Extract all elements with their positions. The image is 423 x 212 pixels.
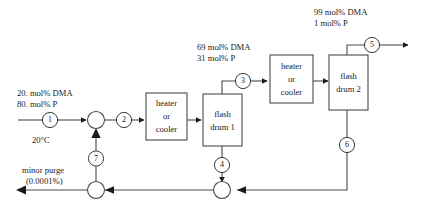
heater2-label-line2: or xyxy=(288,74,295,84)
feed-temperature: 20°C xyxy=(32,135,50,145)
pipe-stream6-to-mixer xyxy=(237,152,347,190)
stream-label-7: 7 xyxy=(94,154,98,163)
stream-label-6: 6 xyxy=(345,140,349,149)
purge-label-line1: minor purge xyxy=(22,165,64,175)
stream-label-2: 2 xyxy=(122,115,126,124)
junction-mixer-feed-recycle[interactable] xyxy=(88,112,105,129)
junction-splitter-purge[interactable] xyxy=(88,182,105,199)
stream-label-4: 4 xyxy=(220,160,224,169)
flash2-label-line2: drum 2 xyxy=(336,84,361,94)
stream5-composition-line1: 99 mol% DMA xyxy=(314,7,368,17)
unit-flash-drum-1[interactable] xyxy=(203,94,242,146)
pipe-flash1-vapor-riser xyxy=(222,81,236,94)
heater1-label-line1: heater xyxy=(156,98,177,108)
process-flow-diagram: heater or cooler flash drum 1 heater or … xyxy=(0,0,423,212)
junction-mixer-bottoms[interactable] xyxy=(214,182,231,199)
arrowhead-recycle-into-mixer xyxy=(91,128,100,138)
flash1-label-line2: drum 1 xyxy=(210,122,235,132)
arrowhead-purge-outlet xyxy=(16,186,26,195)
feed-composition-line2: 80. mol% P xyxy=(17,99,58,109)
stream-label-3: 3 xyxy=(241,76,245,85)
heater2-label-line1: heater xyxy=(281,61,302,71)
heater1-label-line2: or xyxy=(163,111,170,121)
stream-label-1: 1 xyxy=(48,115,52,124)
pipe-flash2-vapor-riser xyxy=(347,45,365,55)
arrowhead-stream6-into-mixer xyxy=(237,186,246,194)
stream3-composition-line1: 69 mol% DMA xyxy=(197,42,251,52)
feed-composition-line1: 20. mol% DMA xyxy=(17,88,73,98)
arrowhead-into-purge-splitter xyxy=(105,186,114,194)
flowsheet-canvas: heater or cooler flash drum 1 heater or … xyxy=(0,0,423,212)
stream-label-5: 5 xyxy=(370,40,374,49)
stream5-composition-line2: 1 mol% P xyxy=(314,18,348,28)
purge-label-line2: (0.0001%) xyxy=(26,176,63,186)
heater1-label-line3: cooler xyxy=(156,124,178,134)
heater2-label-line3: cooler xyxy=(281,87,303,97)
flash2-label-line1: flash xyxy=(340,71,357,81)
stream3-composition-line2: 31 mol% P xyxy=(197,53,235,63)
unit-flash-drum-2[interactable] xyxy=(329,55,368,110)
flash1-label-line1: flash xyxy=(214,109,231,119)
